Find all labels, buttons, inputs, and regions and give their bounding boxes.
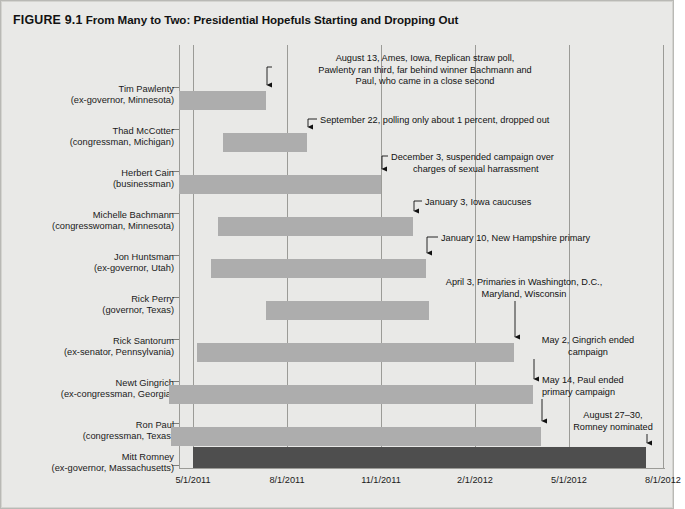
- gridline-2-1-2012: [475, 45, 476, 468]
- candidate-office: (governor, Texas): [0, 305, 174, 316]
- candidate-name: Rick Santorum: [113, 336, 174, 346]
- leader-september-22: [308, 119, 317, 127]
- bar-perry[interactable]: [266, 301, 429, 320]
- annotation-april-3: April 3, Primaries in Washington, D.C., …: [399, 277, 649, 300]
- candidate-office: (congresswoman, Minnesota): [0, 221, 174, 232]
- annotation-line-2: Maryland, Wisconsin: [482, 289, 567, 299]
- candidate-name: Ron Paul: [136, 420, 174, 430]
- annotation-december-3: December 3, suspended campaign over char…: [391, 152, 554, 175]
- gridline-5-1-2012: [569, 45, 570, 468]
- candidate-name: Jon Huntsman: [114, 252, 174, 262]
- x-tick-label-3: 2/1/2012: [435, 475, 515, 485]
- annotation-may-2: May 2, Gingrich ended campaign: [513, 335, 663, 358]
- candidate-name: Herbert Cain: [121, 168, 174, 178]
- candidate-label-pawlenty: Tim Pawlenty (ex-governor, Minnesota): [0, 84, 174, 107]
- annotation-line-2: campaign: [568, 347, 608, 357]
- bar-bachmann[interactable]: [218, 217, 413, 236]
- candidate-label-mccotter: Thad McCotter (congressman, Michigan): [0, 126, 174, 149]
- annotation-line-1: May 2, Gingrich ended: [542, 335, 634, 345]
- annotation-august-13: August 13, Ames, Iowa, Replican straw po…: [275, 53, 575, 88]
- annotation-line-1: August 13, Ames, Iowa, Replican straw po…: [336, 53, 515, 63]
- annotation-line-1: January 10, New Hampshire primary: [441, 233, 590, 243]
- candidate-office: (ex-congressman, Georgia): [0, 389, 174, 400]
- annotation-line-3: Paul, who came in a close second: [356, 76, 495, 86]
- candidate-name: Tim Pawlenty: [119, 84, 174, 94]
- candidate-office: (businessman): [0, 179, 174, 190]
- x-tick-label-1: 8/1/2011: [247, 475, 327, 485]
- candidate-office: (congressman, Texas): [0, 431, 174, 442]
- gridline-11-1-2011: [381, 45, 382, 468]
- candidate-label-huntsman: Jon Huntsman (ex-governor, Utah): [0, 252, 174, 275]
- x-tick-label-0: 5/1/2011: [153, 475, 233, 485]
- candidate-label-gingrich: Newt Gingrich (ex-congressman, Georgia): [0, 378, 174, 401]
- annotation-line-1: September 22, polling only about 1 perce…: [320, 115, 549, 125]
- candidate-office: (ex-governor, Minnesota): [0, 95, 174, 106]
- annotation-january-3: January 3, Iowa caucuses: [425, 197, 531, 209]
- gridline-8-1-2011: [287, 45, 288, 468]
- candidate-label-paul: Ron Paul (congressman, Texas): [0, 420, 174, 443]
- annotation-september-22: September 22, polling only about 1 perce…: [320, 115, 549, 127]
- candidate-office: (ex-governor, Massachusetts): [0, 463, 174, 474]
- candidate-office: (ex-senator, Pennsylvania): [0, 347, 174, 358]
- annotation-line-1: April 3, Primaries in Washington, D.C.,: [446, 277, 602, 287]
- annotation-may-14: May 14, Paul ended primary campaign: [542, 375, 624, 398]
- annotation-january-10: January 10, New Hampshire primary: [441, 233, 590, 245]
- candidate-office: (congressman, Michigan): [0, 137, 174, 148]
- annotation-line-1: May 14, Paul ended: [542, 375, 624, 385]
- x-tick-label-2: 11/1/2011: [341, 475, 421, 485]
- candidate-label-santorum: Rick Santorum (ex-senator, Pennsylvania): [0, 336, 174, 359]
- annotation-line-1: August 27–30,: [583, 410, 642, 420]
- leader-january-10: [427, 237, 438, 253]
- annotation-line-2: primary campaign: [542, 387, 615, 397]
- annotation-line-2: charges of sexual harrassment: [391, 164, 539, 176]
- x-tick-label-5: 8/1/2012: [623, 475, 685, 485]
- annotation-august-27: August 27–30, Romney nominated: [553, 410, 673, 433]
- leader-december-3: [382, 156, 388, 169]
- bar-santorum[interactable]: [197, 343, 514, 362]
- candidate-name: Rick Perry: [131, 294, 174, 304]
- candidate-label-perry: Rick Perry (governor, Texas): [0, 294, 174, 317]
- candidate-label-bachmann: Michelle Bachmann (congresswoman, Minnes…: [0, 210, 174, 233]
- leader-january-3: [414, 201, 422, 211]
- candidate-office: (ex-governor, Utah): [0, 263, 174, 274]
- bar-pawlenty[interactable]: [179, 91, 266, 110]
- candidate-label-cain: Herbert Cain (businessman): [0, 168, 174, 191]
- x-tick-label-4: 5/1/2012: [529, 475, 609, 485]
- gridline-8-1-2012: [663, 45, 664, 468]
- annotation-line-1: December 3, suspended campaign over: [391, 152, 554, 162]
- candidate-name: Mitt Romney: [122, 452, 174, 462]
- candidate-name: Michelle Bachmann: [93, 210, 174, 220]
- bar-mccotter[interactable]: [223, 133, 307, 152]
- candidate-name: Newt Gingrich: [116, 378, 174, 388]
- bar-paul[interactable]: [171, 427, 541, 446]
- annotation-line-1: January 3, Iowa caucuses: [425, 197, 531, 207]
- bar-gingrich[interactable]: [169, 385, 533, 404]
- candidate-name: Thad McCotter: [113, 126, 174, 136]
- annotation-line-2: Romney nominated: [573, 422, 653, 432]
- candidate-label-romney: Mitt Romney (ex-governor, Massachusetts): [0, 452, 174, 475]
- leader-august-13: [267, 67, 272, 85]
- bar-cain[interactable]: [179, 175, 381, 194]
- x-axis-line: [179, 468, 665, 469]
- bar-huntsman[interactable]: [211, 259, 426, 278]
- bar-romney[interactable]: [193, 447, 646, 468]
- chart-plot-area: Tim Pawlenty (ex-governor, Minnesota) Th…: [1, 1, 675, 509]
- annotation-line-2: Pawlenty ran third, far behind winner Ba…: [318, 65, 531, 75]
